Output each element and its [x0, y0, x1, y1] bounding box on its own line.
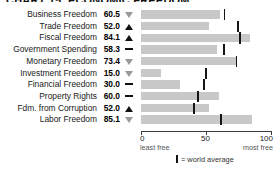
chart-row: Fdm. from Corruption52.0 — [0, 103, 278, 115]
value-bar — [141, 57, 236, 65]
legend: = world average — [176, 155, 234, 164]
value-bar — [141, 69, 161, 77]
world-average-tick — [205, 68, 207, 79]
trend-glyph — [125, 106, 133, 112]
value-bar — [141, 45, 217, 53]
world-average-tick — [223, 44, 225, 55]
trend-down-icon — [123, 114, 135, 126]
chart-row: Property Rights60.0 — [0, 91, 278, 103]
world-average-tick — [237, 21, 239, 32]
trend-glyph — [125, 59, 133, 65]
trend-down-icon — [123, 9, 135, 21]
value-bar — [141, 22, 209, 30]
axis-tick-label: 100 — [260, 134, 273, 143]
world-average-tick — [236, 56, 238, 67]
value-label: 84.1 — [98, 32, 120, 44]
value-label: 73.4 — [98, 56, 120, 68]
world-average-tick — [239, 32, 241, 43]
trend-up-icon — [123, 21, 135, 33]
category-label: Financial Freedom — [0, 79, 97, 91]
value-bar — [141, 115, 252, 123]
world-average-tick — [203, 79, 205, 90]
plot-area — [141, 32, 271, 44]
freedom-bar-chart: Business Freedom60.5Trade Freedom52.0Fis… — [0, 9, 278, 133]
value-label: 52.0 — [98, 21, 120, 33]
trend-flat-icon — [123, 44, 135, 56]
chart-row: Fiscal Freedom84.1 — [0, 32, 278, 44]
value-label: 15.0 — [98, 68, 120, 80]
chart-row: Investment Freedom15.0 — [0, 68, 278, 80]
value-bar — [141, 34, 250, 42]
trend-down-icon — [123, 68, 135, 80]
chart-row: Business Freedom60.5 — [0, 9, 278, 21]
chart-row: Monetary Freedom73.4 — [0, 56, 278, 68]
chart-row: Trade Freedom52.0 — [0, 21, 278, 33]
category-label: Trade Freedom — [0, 21, 97, 33]
category-label: Fdm. from Corruption — [0, 103, 97, 115]
world-average-marker-icon — [176, 155, 178, 163]
value-bar — [141, 92, 219, 100]
plot-area — [141, 21, 271, 33]
value-label: 58.3 — [98, 44, 120, 56]
chart-row: Government Spending58.3 — [0, 44, 278, 56]
plot-area — [141, 68, 271, 80]
value-label: 60.5 — [98, 9, 120, 21]
category-label: Investment Freedom — [0, 68, 97, 80]
axis-most-free-label: most free — [243, 143, 273, 152]
trend-flat-icon — [123, 79, 135, 91]
page-title: CHART 15. ECONOMIC FREEDOM — [6, 0, 190, 2]
trend-glyph — [125, 117, 133, 123]
trend-glyph — [125, 71, 133, 77]
trend-down-icon — [123, 56, 135, 68]
axis-tick-label: 0 — [140, 134, 144, 143]
value-bar — [141, 80, 180, 88]
value-label: 52.0 — [98, 103, 120, 115]
plot-area — [141, 103, 271, 115]
world-average-tick — [224, 9, 226, 20]
value-bar — [141, 10, 220, 18]
category-label: Property Rights — [0, 91, 97, 103]
trend-glyph — [125, 24, 133, 30]
world-average-tick — [197, 91, 199, 102]
world-average-tick — [193, 103, 195, 114]
trend-glyph — [125, 35, 133, 41]
axis-tick-label: 50 — [201, 134, 210, 143]
chart-row: Labor Freedom85.1 — [0, 114, 278, 126]
plot-area — [141, 114, 271, 126]
trend-up-icon — [123, 32, 135, 44]
plot-area — [141, 79, 271, 91]
chart-row: Financial Freedom30.0 — [0, 79, 278, 91]
category-label: Government Spending — [0, 44, 97, 56]
world-average-tick — [220, 114, 222, 125]
value-label: 30.0 — [98, 79, 120, 91]
category-label: Fiscal Freedom — [0, 32, 97, 44]
plot-area — [141, 91, 271, 103]
category-label: Monetary Freedom — [0, 56, 97, 68]
value-bar — [141, 104, 209, 112]
trend-up-icon — [123, 103, 135, 115]
plot-area — [141, 9, 271, 21]
legend-label: = world average — [181, 155, 234, 164]
category-label: Labor Freedom — [0, 114, 97, 126]
trend-glyph — [125, 48, 133, 50]
category-label: Business Freedom — [0, 9, 97, 21]
trend-flat-icon — [123, 91, 135, 103]
plot-area — [141, 56, 271, 68]
trend-glyph — [125, 12, 133, 18]
value-label: 60.0 — [98, 91, 120, 103]
plot-area — [141, 44, 271, 56]
trend-glyph — [125, 83, 133, 85]
axis-least-free-label: least free — [140, 143, 170, 152]
trend-glyph — [125, 95, 133, 97]
value-label: 85.1 — [98, 114, 120, 126]
